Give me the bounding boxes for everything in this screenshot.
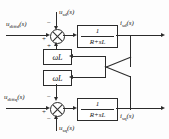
plant-q-fraction-bar <box>81 109 114 110</box>
arrow-coupling-into-sum-q <box>54 97 58 101</box>
wire-input-d <box>6 35 47 36</box>
arrow-coupling-into-sum-d <box>54 42 58 46</box>
wire-cross-q-to-d <box>105 66 131 77</box>
arrow-into-coupling-upper <box>69 54 73 58</box>
block-diagram: udiffd(s) + usd(s) − + 1 R+sL isd(s) ωL … <box>0 0 169 139</box>
wire-disturbance-d <box>56 12 57 27</box>
wire-cross-right-upper <box>130 56 131 67</box>
wire-cross-right-lower <box>130 76 131 110</box>
wire-coupling-upper-out <box>56 49 57 50</box>
sign-sum-q-top: − <box>47 94 51 101</box>
plant-d-denominator: R+sL <box>90 38 106 46</box>
wire-cross-upper-riser <box>105 56 106 67</box>
input-label-u-diffd: udiffd(s) <box>6 20 27 31</box>
plant-q-numerator: 1 <box>96 101 100 108</box>
wire-into-coupling-lower <box>71 77 105 78</box>
arrow-disturbance-q <box>54 115 58 119</box>
disturbance-label-u-sq: usq(s) <box>59 124 74 135</box>
wire-coupling-lower-out <box>56 84 57 98</box>
plant-block-q: 1 R+sL <box>77 98 118 121</box>
sign-sum-d-left: + <box>42 36 46 43</box>
wire-output-d <box>116 35 162 36</box>
wire-cross-lower-riser <box>105 67 106 78</box>
wire-input-q <box>6 108 47 109</box>
sign-sum-d-top: − <box>47 20 51 27</box>
arrow-output-q <box>161 106 165 110</box>
wire-cross-d-to-q <box>105 57 131 68</box>
coupling-gain-lower: ωL <box>43 70 72 86</box>
disturbance-label-u-sd: usd(s) <box>59 8 74 19</box>
output-label-i-sd: isd(s) <box>120 19 134 30</box>
wire-output-q <box>116 108 162 109</box>
coupling-gain-upper: ωL <box>43 49 72 65</box>
arrow-into-coupling-lower <box>69 75 73 79</box>
plant-block-d: 1 R+sL <box>77 25 118 48</box>
wire-into-coupling-upper <box>71 56 105 57</box>
sign-sum-q-bottom: − <box>47 116 51 123</box>
plant-d-numerator: 1 <box>96 28 100 35</box>
wire-disturbance-q <box>56 117 57 131</box>
arrow-output-d <box>161 33 165 37</box>
output-label-i-sq: isq(s) <box>120 112 134 123</box>
sign-sum-q-left: + <box>42 109 46 116</box>
plant-q-denominator: R+sL <box>90 111 106 119</box>
plant-d-fraction-bar <box>81 36 114 37</box>
input-label-u-diffq: udiffq(s) <box>4 93 25 104</box>
